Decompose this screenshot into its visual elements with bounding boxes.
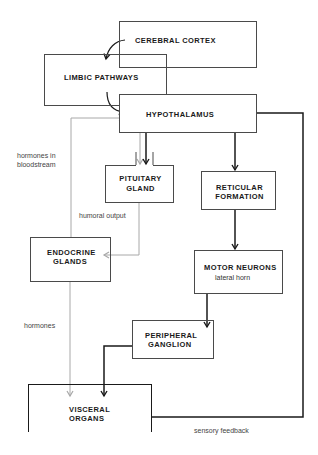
peripheral-ganglion-box: PERIPHERAL GANGLION xyxy=(132,320,214,359)
peripheral-ganglion-label-1: PERIPHERAL xyxy=(145,331,197,340)
pituitary-gland-label-1: PITUITARY xyxy=(106,174,175,183)
autonomic-control-diagram: CEREBRAL CORTEX LIMBIC PATHWAYS HYPOTHAL… xyxy=(0,0,318,455)
hypothalamus-label: HYPOTHALAMUS xyxy=(146,110,214,119)
pituitary-gland-label-2: GLAND xyxy=(106,184,175,193)
pituitary-top-left-edge xyxy=(105,165,136,166)
pituitary-gland-box: PITUITARY GLAND xyxy=(105,165,174,203)
reticular-formation-label-2: FORMATION xyxy=(202,192,277,201)
limbic-pathways-label: LIMBIC PATHWAYS xyxy=(64,73,139,82)
hormones-label: hormones xyxy=(24,321,55,330)
motor-neurons-label: MOTOR NEURONS xyxy=(204,263,277,272)
visceral-organs-label-1: VISCERAL xyxy=(69,405,110,414)
reticular-formation-box: RETICULAR FORMATION xyxy=(201,171,276,210)
cerebral-cortex-label: CEREBRAL CORTEX xyxy=(135,36,216,45)
humoral-output-label: humoral output xyxy=(79,211,126,220)
motor-neurons-sublabel: lateral horn xyxy=(215,273,250,282)
visceral-organs-label-2: ORGANS xyxy=(69,414,104,423)
endocrine-glands-label-1: ENDOCRINE xyxy=(47,248,96,257)
hypothalamus-box: HYPOTHALAMUS xyxy=(119,94,257,133)
endocrine-glands-box: ENDOCRINE GLANDS xyxy=(30,237,111,282)
hormones-in-bloodstream-label-1: hormones in xyxy=(17,151,56,160)
sensory-feedback-label: sensory feedback xyxy=(194,426,249,435)
peripheral-ganglion-label-2: GANGLION xyxy=(148,340,192,349)
motor-neurons-box: MOTOR NEURONS lateral horn xyxy=(194,250,283,294)
hormones-in-bloodstream-label-2: bloodstream xyxy=(17,160,56,169)
endocrine-glands-label-2: GLANDS xyxy=(53,257,87,266)
visceral-organs-box: VISCERAL ORGANS xyxy=(28,384,152,432)
reticular-formation-label-1: RETICULAR xyxy=(202,183,277,192)
pituitary-top-right-edge xyxy=(153,165,174,166)
